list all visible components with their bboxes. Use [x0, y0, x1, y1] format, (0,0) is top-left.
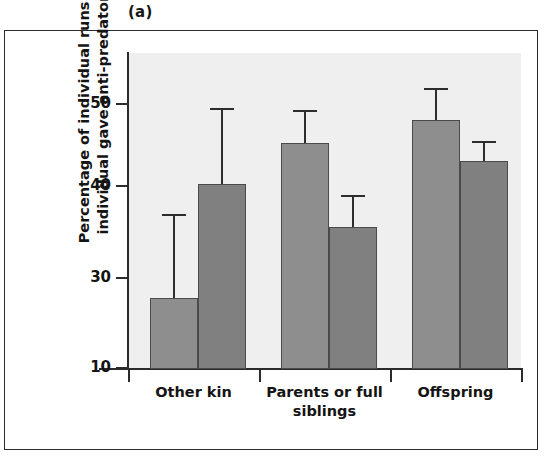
y-axis-tick-label-10: 10: [65, 358, 111, 376]
bar-0-1: [198, 184, 246, 369]
y-axis-line: [127, 52, 129, 370]
y-axis-tick-40: [116, 185, 129, 187]
errorbar-stem-1-0: [304, 110, 306, 143]
x-axis-label-1-line-0: Parents or full: [259, 383, 390, 402]
y-axis-title-line-2: individual gave anti-predator call: [94, 0, 113, 243]
errorbar-cap-1-0: [293, 110, 317, 112]
y-axis-tick-10: [116, 367, 129, 369]
x-axis-tick-3: [521, 370, 523, 382]
panel-label: (a): [128, 3, 152, 21]
y-axis-tick-label-50: 50: [65, 94, 111, 112]
bar-2-1: [460, 161, 508, 369]
errorbar-stem-0-1: [221, 108, 223, 183]
x-axis-label-0: Other kin: [128, 383, 259, 402]
bar-1-1: [329, 227, 377, 369]
bar-2-0: [412, 120, 460, 369]
y-axis-title-line-1: Percentage of individual runs when: [75, 0, 94, 243]
errorbar-stem-0-0: [173, 214, 175, 299]
errorbar-stem-2-0: [435, 88, 437, 121]
x-axis-tick-0: [128, 370, 130, 382]
errorbar-stem-1-1: [352, 195, 354, 227]
x-axis-tick-2: [390, 370, 392, 382]
bar-0-0: [150, 298, 198, 369]
x-axis-label-2: Offspring: [390, 383, 521, 402]
bar-1-0: [281, 143, 329, 369]
errorbar-cap-1-1: [341, 195, 365, 197]
x-axis-label-1-line-1: siblings: [259, 402, 390, 421]
figure-frame: Percentage of individual runs when indiv…: [4, 30, 538, 450]
y-axis-tick-50: [116, 103, 129, 105]
x-axis-label-0-line-0: Other kin: [128, 383, 259, 402]
x-axis-label-2-line-0: Offspring: [390, 383, 521, 402]
errorbar-cap-2-0: [424, 88, 448, 90]
errorbar-stem-2-1: [483, 141, 485, 162]
x-axis-label-1: Parents or fullsiblings: [259, 383, 390, 421]
errorbar-cap-0-0: [162, 214, 186, 216]
y-axis-title: Percentage of individual runs when indiv…: [71, 0, 117, 263]
errorbar-cap-0-1: [210, 108, 234, 110]
y-axis-tick-label-30: 30: [65, 268, 111, 286]
y-axis-tick-label-40: 40: [65, 176, 111, 194]
errorbar-cap-2-1: [472, 141, 496, 143]
x-axis-tick-1: [259, 370, 261, 382]
y-axis-tick-30: [116, 277, 129, 279]
